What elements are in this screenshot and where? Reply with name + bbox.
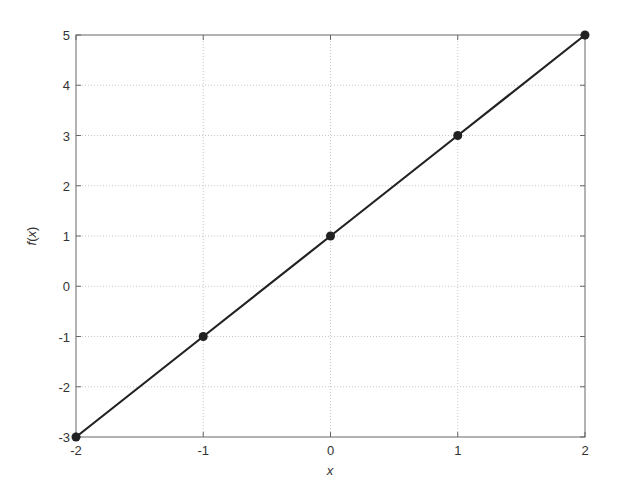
y-tick-label: -1 [58,330,70,345]
data-point-marker [72,433,81,442]
y-axis-label-close: ) [24,227,39,231]
y-axis-label: f(x) [24,227,39,246]
x-tick-label: 2 [581,443,588,458]
data-point-marker [581,31,590,40]
data-point-marker [199,332,208,341]
line-chart: -2-1012 -3-2-1012345 x f(x) [0,0,618,504]
data-point-marker [326,232,335,241]
x-tick-label: 1 [454,443,461,458]
y-tick-label: 3 [63,129,70,144]
y-tick-label: -3 [58,430,70,445]
x-tick-label: 0 [327,443,334,458]
y-tick-labels: -3-2-1012345 [58,28,70,445]
x-tick-label: -1 [197,443,209,458]
y-tick-label: 0 [63,279,70,294]
y-tick-label: 4 [63,78,70,93]
y-tick-label: 5 [63,28,70,43]
x-tick-labels: -2-1012 [70,443,588,458]
x-axis-label: x [326,463,334,478]
x-tick-label: -2 [70,443,82,458]
y-tick-label: -2 [58,380,70,395]
data-point-marker [453,131,462,140]
y-tick-label: 1 [63,229,70,244]
y-tick-label: 2 [63,179,70,194]
